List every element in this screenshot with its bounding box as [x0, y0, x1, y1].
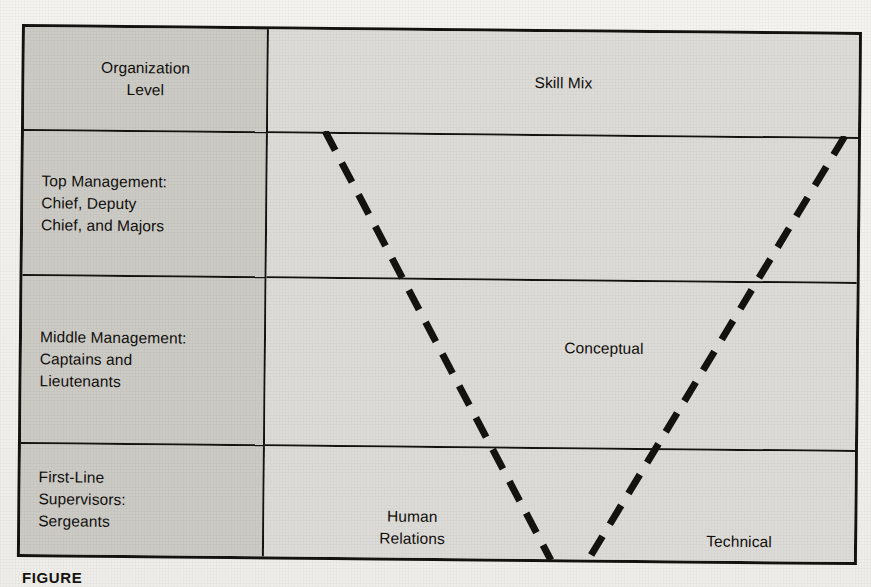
skill-region-label-technical: Technical [664, 530, 814, 553]
figure-table-skew-wrapper: Organization Level Skill Mix Top Managem… [17, 24, 862, 565]
row-label-middle-management: Middle Management: Captains and Lieutena… [21, 276, 267, 446]
column-header-skill-mix-text: Skill Mix [534, 72, 592, 95]
skill-cell-middle-management: Conceptual [265, 278, 857, 452]
column-header-organization-level-text: Organization Level [101, 57, 191, 102]
column-header-skill-mix: Skill Mix [268, 29, 859, 139]
row-label-first-line-supervisors-text: First-Line Supervisors: Sergeants [38, 466, 126, 533]
row-label-middle-management-text: Middle Management: Captains and Lieutena… [39, 326, 186, 393]
figure-caption: FIGURE [22, 569, 82, 586]
row-label-top-management: Top Management: Chief, Deputy Chief, and… [23, 131, 268, 278]
column-header-organization-level: Organization Level [24, 27, 269, 133]
row-label-first-line-supervisors: First-Line Supervisors: Sergeants [20, 444, 265, 556]
row-label-top-management-text: Top Management: Chief, Deputy Chief, and… [41, 170, 167, 237]
skill-cell-top-management [267, 133, 858, 284]
skill-cell-first-line-supervisors: Human Relations Technical [264, 446, 855, 562]
figure-table: Organization Level Skill Mix Top Managem… [17, 24, 862, 565]
skill-region-label-conceptual: Conceptual [524, 337, 684, 361]
skill-mix-figure: Organization Level Skill Mix Top Managem… [0, 0, 871, 587]
skill-region-label-human-relations: Human Relations [342, 505, 482, 550]
